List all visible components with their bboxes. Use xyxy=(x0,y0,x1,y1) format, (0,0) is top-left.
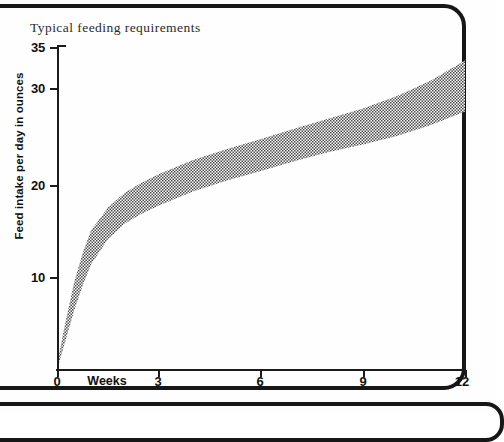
x-tick-label-9: 9 xyxy=(359,374,366,389)
y-tick-label-30: 30 xyxy=(31,81,45,96)
y-tick-label-10: 10 xyxy=(31,270,45,285)
y-tick-label-20: 20 xyxy=(31,178,45,193)
x-axis-title: Weeks xyxy=(87,374,126,388)
y-tick-label-35: 35 xyxy=(31,40,45,55)
x-tick-label-6: 6 xyxy=(256,374,263,389)
x-tick-label-12: 12 xyxy=(455,374,469,389)
x-tick-label-3: 3 xyxy=(154,374,161,389)
y-axis-title: Feed intake per day in ounces xyxy=(13,41,25,271)
x-tick-label-0: 0 xyxy=(53,374,60,389)
